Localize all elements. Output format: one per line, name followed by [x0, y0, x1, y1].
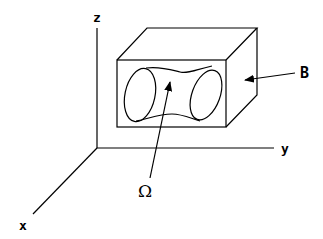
box-right-face: [226, 28, 257, 127]
omega-arrow: [150, 82, 170, 178]
x-axis: [33, 148, 97, 214]
coordinate-axes: z y x: [19, 10, 289, 233]
omega-right-end: [184, 66, 228, 124]
z-axis-label: z: [93, 10, 101, 25]
box-top-face: [117, 28, 257, 60]
omega-label: Ω: [138, 181, 152, 201]
box-label: B: [300, 64, 309, 82]
omega-top-contour: [146, 66, 212, 73]
box-arrow: [245, 73, 295, 80]
diagram-canvas: z y x Ω B: [0, 0, 323, 239]
box-pointer: B: [245, 64, 309, 82]
x-axis-label: x: [19, 218, 27, 233]
y-axis-label: y: [281, 141, 289, 156]
domain-omega: [120, 65, 228, 124]
omega-left-end: [120, 65, 161, 124]
box-b: [117, 28, 257, 127]
